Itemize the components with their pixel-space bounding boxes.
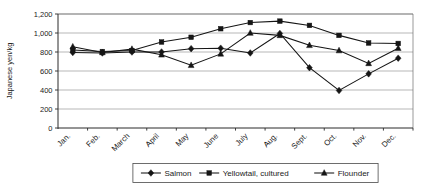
x-axis-tick-label: Sept. [290,132,309,151]
diamond-marker-icon [247,50,253,57]
series-line-yellowtail-cultured [73,21,398,51]
square-marker-icon [278,19,283,24]
line-chart: 02004006008001,0001,200Japanese yen/kgJa… [0,0,437,190]
square-marker-icon [248,20,253,25]
x-axis-tick-label: Feb. [84,132,101,149]
triangle-marker-icon [218,51,224,57]
y-axis-tick-label: 200 [40,105,53,114]
chart-canvas: 02004006008001,0001,200Japanese yen/kgJa… [0,0,437,190]
x-axis-tick-label: Aug. [262,132,280,150]
y-axis-tick-label: 1,000 [34,29,53,38]
diamond-marker-icon [366,71,372,78]
x-axis-tick-label: July [234,131,250,147]
square-marker-icon [207,171,212,176]
y-axis-tick-label: 1,200 [34,10,53,19]
legend-label: Flounder [338,169,370,178]
square-marker-icon [218,26,223,31]
y-axis-tick-label: 600 [40,67,53,76]
y-axis-tick-label: 400 [40,86,53,95]
triangle-marker-icon [247,30,253,36]
y-axis-tick-label: 800 [40,48,53,57]
series-line-salmon [73,33,398,90]
x-axis-tick-label: Dec. [380,132,398,150]
square-marker-icon [337,33,342,38]
legend-label: Yellowtail, cultured [223,169,289,178]
diamond-marker-icon [336,87,342,94]
legend-label: Salmon [164,169,191,178]
x-axis-tick-label: March [110,132,132,154]
square-marker-icon [307,23,312,28]
square-marker-icon [159,40,164,45]
diamond-marker-icon [395,55,401,62]
square-marker-icon [366,41,371,46]
x-axis-tick-label: Jan. [55,132,72,149]
y-axis-title: Japanese yen/kg [5,43,14,100]
triangle-marker-icon [70,43,76,49]
x-axis-tick-label: Oct. [322,132,338,148]
y-axis-tick-label: 0 [48,124,52,133]
x-axis-tick-label: April [144,131,162,149]
diamond-marker-icon [188,45,194,52]
x-axis-tick-label: May [174,131,191,148]
x-axis-tick-label: Nov. [351,132,368,149]
x-axis-tick-label: June [202,132,220,150]
square-marker-icon [189,35,194,40]
